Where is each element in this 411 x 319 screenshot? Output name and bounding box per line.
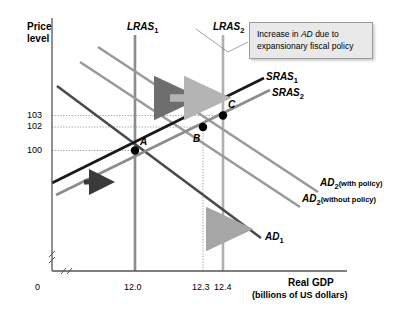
lras1-label-sub: 1 <box>154 26 158 35</box>
point-b-label: B <box>193 133 200 144</box>
sras2-line <box>56 90 270 195</box>
ad2-with-policy-label-text: AD <box>320 177 334 188</box>
y-tick-102: 102 <box>27 121 42 131</box>
sras1-line <box>52 78 264 183</box>
callout-text-line2: expansionary fiscal policy <box>257 41 353 51</box>
lras2-label-text: LRAS <box>213 21 240 32</box>
sras2-label: SRAS2 <box>272 87 304 101</box>
callout-text-emphasis: AD <box>301 29 313 39</box>
x-axis-subtitle: (billions of US dollars) <box>252 290 348 300</box>
y-axis-title-line2: level <box>27 33 49 44</box>
callout-text-post: due to <box>313 29 339 39</box>
x-tick-12-3: 12.3 <box>192 282 210 292</box>
point-b-marker <box>199 123 207 131</box>
sras2-label-sub: 2 <box>300 92 304 101</box>
sras1-label-text: SRAS <box>266 71 294 82</box>
y-tick-103: 103 <box>27 110 42 120</box>
x-tick-12-0: 12.0 <box>124 282 142 292</box>
ad2-without-policy-label-text: AD <box>302 193 316 204</box>
ad2-without-policy-label-paren: (without policy) <box>321 195 376 204</box>
sras1-label-sub: 1 <box>294 76 298 85</box>
point-c-label: C <box>228 99 235 110</box>
ad1-label: AD1 <box>265 231 284 245</box>
callout-text-pre: Increase in <box>257 29 301 39</box>
ad2-with-policy-label: AD2(with policy) <box>320 177 382 191</box>
sras1-label: SRAS1 <box>266 71 298 85</box>
x-tick-12-4: 12.4 <box>214 282 232 292</box>
point-a-label: A <box>140 136 147 147</box>
chart-figure: Price level 103 102 100 0 12.0 12.3 12.4… <box>0 0 411 319</box>
ad1-label-sub: 1 <box>279 236 283 245</box>
callout-annotation: Increase in AD due to expansionary fisca… <box>249 22 373 59</box>
point-c-marker <box>219 111 227 119</box>
lras1-label-text: LRAS <box>127 21 154 32</box>
ad2-without-policy-label: AD2(without policy) <box>302 193 376 207</box>
y-tick-100: 100 <box>27 145 42 155</box>
ad2-with-policy-label-paren: (with policy) <box>339 179 383 188</box>
y-axis-title-line1: Price <box>27 21 51 32</box>
origin-label: 0 <box>35 282 40 292</box>
point-a-marker <box>131 146 139 154</box>
sras2-label-text: SRAS <box>272 87 300 98</box>
lras2-label: LRAS2 <box>213 21 244 35</box>
lras2-label-sub: 2 <box>240 26 244 35</box>
ad1-label-text: AD <box>265 231 279 242</box>
lras1-label: LRAS1 <box>127 21 158 35</box>
x-axis-title: Real GDP <box>288 277 334 288</box>
